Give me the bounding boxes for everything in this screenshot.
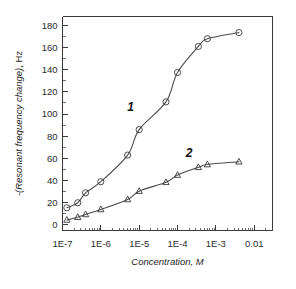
y-tick-label-6: 120 [42,86,58,97]
y-axis-title: -(Resonant frequency change), Hz [13,51,24,196]
x-tick-label-4: 1E-3 [206,238,226,249]
chart-figure: 0204060801001201401601801E-71E-61E-51E-4… [0,0,296,289]
y-tick-label-2: 40 [47,175,58,186]
y-axis-title-unit: , Hz [13,51,24,68]
fit-curves [67,33,239,220]
axis-titles: Concentration, M-(Resonant frequency cha… [13,51,204,267]
fit-curve-series-2 [67,162,239,220]
y-tick-label-4: 80 [47,131,58,142]
curve-label-2: 2 [185,146,193,160]
y-tick-label-8: 160 [42,42,58,53]
concentration-response-plot: 0204060801001201401601801E-71E-61E-51E-4… [0,0,296,289]
y-axis-title-main: -(Resonant frequency change) [13,68,24,196]
y-tick-label-3: 60 [47,153,58,164]
tick-labels: 0204060801001201401601801E-71E-61E-51E-4… [42,20,264,249]
y-tick-label-9: 180 [42,20,58,31]
y-tick-label-0: 0 [52,219,57,230]
y-tick-label-1: 20 [47,197,58,208]
fit-curve-series-1 [67,33,239,208]
axis-ticks [63,25,273,230]
x-tick-label-3: 1E-4 [167,238,187,249]
y-tick-label-7: 140 [42,64,58,75]
x-tick-label-5: 0.01 [245,238,264,249]
curve-label-1: 1 [127,100,134,114]
plot-frame-top-right [63,17,273,231]
data-markers [64,29,242,222]
x-tick-label-1: 1E-6 [91,238,111,249]
x-axis-title: Concentration, M [131,256,203,267]
y-tick-label-5: 100 [42,108,58,119]
plot-axes [63,17,273,231]
x-tick-label-2: 1E-5 [129,238,149,249]
x-tick-label-0: 1E-7 [52,238,72,249]
